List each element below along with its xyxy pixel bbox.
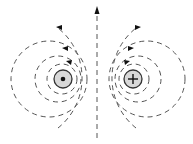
arrow-right-2-icon bbox=[128, 46, 134, 51]
dot-icon bbox=[61, 77, 66, 82]
arrow-right-3-icon bbox=[135, 25, 141, 30]
arrow-left-2-icon bbox=[62, 46, 68, 51]
wire-into-page bbox=[124, 70, 142, 88]
arrow-up-icon bbox=[95, 6, 100, 14]
right-field-lines bbox=[109, 25, 185, 128]
arrow-right-1-icon bbox=[124, 60, 130, 65]
arrow-left-1-icon bbox=[66, 60, 72, 65]
center-field-line bbox=[95, 6, 100, 138]
magnetic-field-diagram bbox=[0, 0, 193, 144]
left-field-lines bbox=[11, 25, 87, 128]
wire-out-of-page bbox=[54, 70, 72, 88]
